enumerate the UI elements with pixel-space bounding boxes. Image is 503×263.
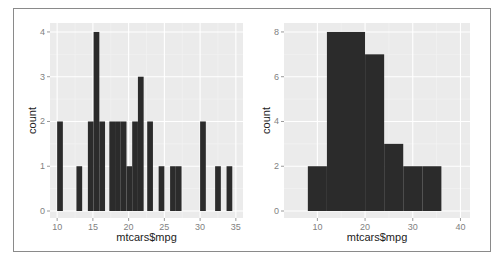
histogram-bar (308, 166, 327, 211)
histogram-bar (346, 32, 365, 211)
y-tick-label: 4 (274, 116, 279, 126)
histogram-bar (403, 166, 422, 211)
histogram-bar (365, 54, 384, 211)
histogram-right: 1020304002468mtcars$mpgcount (0, 0, 503, 263)
histogram-bar (422, 166, 441, 211)
histogram-bar (384, 144, 403, 211)
x-tick-label: 30 (408, 222, 418, 232)
y-tick-label: 0 (274, 206, 279, 216)
y-tick-label: 8 (274, 27, 279, 37)
y-axis-title: count (260, 107, 272, 134)
x-tick-label: 10 (312, 222, 322, 232)
y-tick-label: 2 (274, 161, 279, 171)
x-tick-label: 40 (455, 222, 465, 232)
x-axis-title: mtcars$mpg (347, 231, 408, 243)
y-tick-label: 6 (274, 72, 279, 82)
histogram-bar (327, 32, 346, 211)
